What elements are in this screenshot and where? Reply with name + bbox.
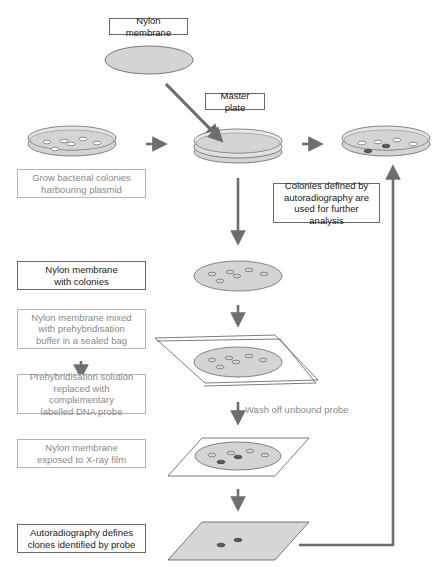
nylon-membrane-label: Nylon membrane	[109, 18, 188, 35]
colonies-defined-step: Colonies defined by autoradiography are …	[273, 183, 380, 223]
probe-line3: labelled DNA probe	[41, 406, 123, 418]
colonies-defined-line3: used for further analysis	[277, 203, 376, 226]
bacterial-colonies-dish	[28, 126, 116, 156]
xray-film-membrane	[168, 438, 309, 476]
prehybridisation-bag-step: Nylon membrane mixed with prehybridisati…	[17, 309, 146, 349]
master-plate-text: Master plate	[209, 90, 261, 113]
probe-line1: Prehybridisation solution	[30, 371, 134, 383]
wash-text: Wash off unbound probe	[245, 404, 349, 415]
master-plate-label: Master plate	[205, 93, 265, 110]
membrane-colonies-line2: with colonies	[54, 276, 108, 288]
wash-label: Wash off unbound probe	[245, 404, 349, 415]
colonies-defined-line1: Colonies defined by	[285, 180, 368, 192]
colonies-defined-line2: autoradiography are	[284, 192, 369, 204]
probe-line2: replaced with complementary	[21, 383, 142, 406]
grow-colonies-line2: harbouring plasmid	[41, 184, 122, 196]
master-plate-dish	[194, 129, 282, 163]
xray-exposure-step: Nylon membrane exposed to X-ray film	[17, 439, 146, 468]
feedback-connector-arrow	[299, 172, 393, 545]
sealed-bag	[155, 335, 318, 386]
autoradiograph-film	[168, 522, 309, 560]
labelled-probe-step: Prehybridisation solution replaced with …	[17, 374, 146, 414]
xray-line1: Nylon membrane	[45, 442, 117, 454]
autorad-line2: clones identified by probe	[28, 539, 136, 551]
prehyb-bag-line2: with prehybridisation	[38, 323, 125, 335]
membrane-colonies-line1: Nylon membrane	[45, 264, 117, 276]
nylon-membrane-disc	[105, 46, 193, 74]
grow-colonies-line1: Grow bacterial colonies	[32, 172, 131, 184]
membrane-with-colonies-step: Nylon membrane with colonies	[17, 261, 146, 290]
autorad-line1: Autoradiography defines	[30, 527, 133, 539]
autoradiography-step: Autoradiography defines clones identifie…	[17, 524, 146, 553]
prehyb-bag-line3: buffer in a sealed bag	[36, 335, 127, 347]
grow-colonies-step: Grow bacterial colonies harbouring plasm…	[17, 169, 146, 198]
nylon-membrane-text: Nylon membrane	[113, 15, 184, 38]
membrane-with-colonies	[194, 261, 282, 291]
prehyb-bag-line1: Nylon membrane mixed	[31, 312, 131, 324]
diagram-canvas: Nylon membrane Master plate Grow bacteri…	[0, 0, 447, 574]
selected-colonies-dish	[342, 126, 430, 156]
xray-line2: exposed to X-ray film	[37, 454, 126, 466]
